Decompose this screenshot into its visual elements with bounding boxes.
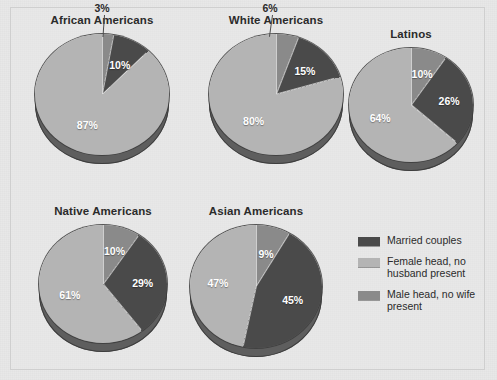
pie-chart-title: White Americans (229, 14, 323, 26)
pie-slice-label: 10% (104, 245, 125, 257)
pie-chart-title: Native Americans (54, 205, 152, 217)
pie-slice-label: 3% (94, 2, 109, 14)
pie-chart-title: Latinos (390, 28, 432, 40)
legend-item-label: Female head, no husband present (387, 255, 490, 280)
pie-slice-divider (276, 34, 277, 94)
pie-chart-latinos: Latinos 10%26%64% (336, 28, 486, 186)
pie-graphic: 10%26%64% (349, 48, 473, 171)
pie-slice-label: 87% (77, 119, 98, 131)
pie-graphic: 3%10%87% (35, 34, 169, 164)
pie-slice-label: 64% (370, 112, 391, 124)
pie-slice-label: 6% (262, 2, 277, 14)
pie-chart-title: Asian Americans (209, 205, 303, 217)
legend-swatch-icon (358, 237, 380, 246)
pie-chart-asian-americans: Asian Americans 9%45%47% (168, 205, 344, 371)
pie-slice-label: 10% (412, 68, 433, 80)
pie-slice-label: 45% (282, 294, 303, 306)
pie-graphic: 10%29%61% (39, 225, 167, 352)
legend-item: Female head, no husband present (358, 255, 490, 280)
pie-slice-label: 15% (294, 65, 315, 77)
pie-slice-divider (256, 225, 257, 286)
pie-graphic: 9%45%47% (190, 225, 322, 357)
legend-swatch-icon (358, 291, 380, 300)
pie-slice-label: 10% (109, 59, 130, 71)
pie-slice-label: 80% (243, 115, 264, 127)
pie-slice-label: 47% (207, 277, 228, 289)
figure-canvas: African Americans 3%10%87% White America… (0, 0, 497, 380)
legend-item: Male head, no wife present (358, 288, 490, 313)
pie-slice-label: 26% (439, 95, 460, 107)
pie-slice-label: 29% (132, 277, 153, 289)
pie-chart-title: African Americans (51, 14, 154, 26)
legend: Married couples Female head, no husband … (358, 234, 490, 321)
legend-item-label: Male head, no wife present (387, 288, 490, 313)
pie-slice-label: 61% (59, 289, 80, 301)
legend-item-label: Married couples (387, 234, 462, 247)
pie-chart-native-americans: Native Americans 10%29%61% (18, 205, 188, 371)
legend-item: Married couples (358, 234, 490, 247)
legend-swatch-icon (358, 258, 380, 267)
pie-chart-african-americans: African Americans 3%10%87% (14, 14, 190, 186)
pie-graphic: 6%15%80% (209, 34, 343, 164)
pie-slice-label: 9% (258, 248, 273, 260)
